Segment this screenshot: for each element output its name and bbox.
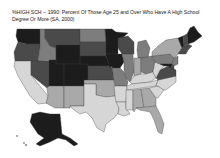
state-nm[interactable] <box>64 86 84 108</box>
state-ms[interactable] <box>126 90 133 110</box>
state-nd[interactable] <box>80 29 106 42</box>
states-layer <box>14 26 202 146</box>
state-ut[interactable] <box>49 60 64 86</box>
state-ar[interactable] <box>114 86 127 102</box>
state-or[interactable] <box>14 42 40 61</box>
state-az[interactable] <box>46 86 64 108</box>
state-wy[interactable] <box>56 45 80 64</box>
state-in[interactable] <box>134 58 141 76</box>
state-mi[interactable] <box>137 40 150 58</box>
alaska-islands <box>16 135 27 146</box>
state-sd[interactable] <box>80 42 106 56</box>
state-wi[interactable] <box>118 36 134 54</box>
state-fl[interactable] <box>136 106 164 134</box>
state-oh[interactable] <box>141 56 155 74</box>
state-wa[interactable] <box>16 29 40 44</box>
state-me[interactable] <box>187 26 202 44</box>
state-ak[interactable] <box>30 112 78 146</box>
us-choropleth-map <box>0 0 220 158</box>
